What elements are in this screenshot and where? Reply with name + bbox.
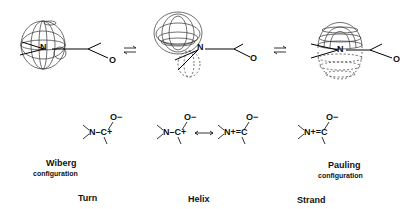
nitrogen-label-3: N bbox=[337, 44, 344, 54]
wiberg-configuration-label: configuration bbox=[33, 170, 78, 177]
o-minus-4: O− bbox=[326, 112, 338, 122]
nitrogen-label-1: N bbox=[40, 42, 47, 52]
turn-label: Turn bbox=[78, 193, 97, 203]
strand-label: Strand bbox=[297, 195, 326, 205]
nitrogen-label-2: N bbox=[197, 42, 204, 52]
wiberg-label: Wiberg bbox=[46, 158, 76, 168]
formula-helix-left: N–C+ bbox=[163, 127, 186, 137]
helix-label: Helix bbox=[188, 194, 210, 204]
o-minus-2: O− bbox=[184, 112, 196, 122]
helix-orbital bbox=[154, 12, 202, 77]
oxygen-label-3: O bbox=[393, 54, 400, 64]
o-minus-1: O− bbox=[110, 112, 122, 122]
oxygen-label-2: O bbox=[250, 53, 257, 63]
formula-pauling: N+=C bbox=[304, 127, 328, 137]
o-minus-3: O− bbox=[246, 112, 258, 122]
formula-helix-right: N+=C bbox=[224, 127, 248, 137]
pauling-label: Pauling bbox=[328, 160, 361, 170]
oxygen-label-1: O bbox=[109, 55, 116, 65]
formula-wiberg: N–C+ bbox=[89, 127, 112, 137]
pauling-configuration-label: configuration bbox=[318, 172, 363, 179]
